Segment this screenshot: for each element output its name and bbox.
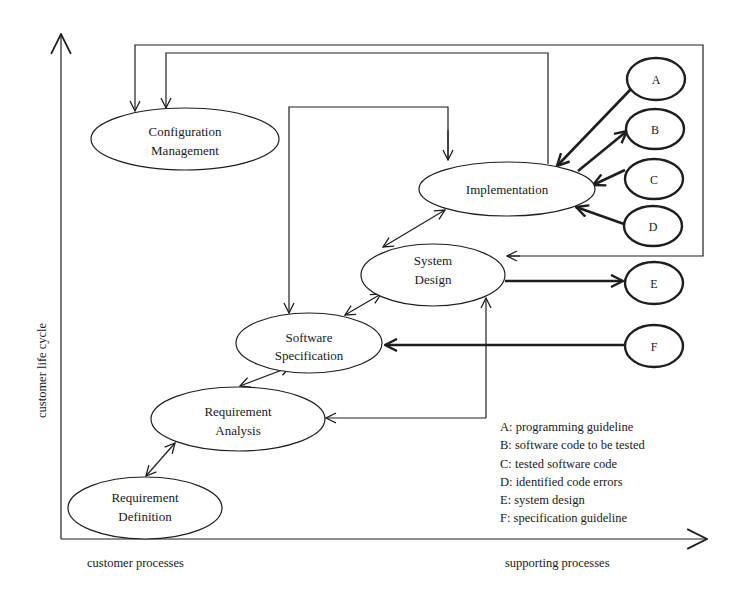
arrow-spec-design: [345, 294, 381, 315]
node-configuration-management[interactable]: Configuration Management: [91, 108, 279, 170]
node-label: Requirement: [204, 404, 272, 419]
process-diagram: customer life cycle customer processes s…: [0, 0, 746, 606]
node-implementation[interactable]: Implementation: [419, 162, 595, 216]
node-software-specification[interactable]: Software Specification: [236, 313, 382, 373]
artifact-label: D: [649, 220, 658, 234]
node-requirement-analysis[interactable]: Requirement Analysis: [151, 387, 325, 451]
artifact-label: F: [651, 340, 658, 354]
arrow-a-to-implementation: [557, 89, 631, 166]
node-label: Analysis: [215, 423, 261, 438]
node-label: Management: [151, 143, 219, 158]
legend-item-f: F: specification guideline: [500, 511, 628, 525]
legend-item-b: B: software code to be tested: [500, 438, 645, 452]
legend-item-e: E: system design: [500, 493, 585, 507]
arrow-c-to-implementation: [593, 170, 625, 185]
artifact-f[interactable]: F: [625, 325, 683, 367]
y-axis-label: customer life cycle: [35, 322, 49, 418]
legend: A: programming guideline B: software cod…: [500, 420, 645, 525]
artifact-c[interactable]: C: [625, 159, 683, 199]
arrow-d-to-implementation: [576, 207, 624, 224]
x-axis-right-label: supporting processes: [505, 556, 610, 570]
artifact-e[interactable]: E: [625, 262, 683, 304]
legend-item-c: C: tested software code: [500, 457, 617, 471]
node-label: Design: [415, 272, 452, 287]
x-axis-left-label: customer processes: [87, 556, 184, 570]
node-label: Implementation: [466, 182, 549, 197]
node-label: Specification: [275, 348, 344, 363]
node-system-design[interactable]: System Design: [361, 244, 505, 306]
artifact-label: B: [651, 123, 659, 137]
artifact-d[interactable]: D: [624, 206, 682, 246]
artifact-label: A: [652, 73, 661, 87]
node-label: Configuration: [149, 124, 222, 139]
artifact-label: C: [650, 173, 658, 187]
arrow-design-implementation: [383, 210, 445, 247]
node-label: System: [414, 253, 452, 268]
node-label: Definition: [118, 509, 172, 524]
artifact-a[interactable]: A: [627, 58, 685, 100]
artifact-b[interactable]: B: [626, 109, 684, 149]
node-label: Software: [286, 330, 333, 345]
legend-item-d: D: identified code errors: [500, 475, 623, 489]
node-label: Requirement: [111, 490, 179, 505]
artifact-label: E: [650, 277, 657, 291]
legend-item-a: A: programming guideline: [500, 420, 634, 434]
node-requirement-definition[interactable]: Requirement Definition: [68, 477, 222, 539]
arrow-definition-analysis: [146, 443, 175, 476]
